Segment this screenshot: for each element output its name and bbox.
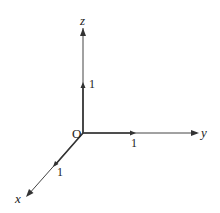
- x-unit-label: 1: [57, 166, 63, 179]
- y-unit-label: 1: [131, 137, 137, 150]
- axes-graphic: [0, 0, 220, 213]
- origin-label: O: [72, 127, 81, 140]
- coordinate-diagram: z 1 O y 1 x 1: [0, 0, 220, 213]
- x-axis-label: x: [15, 192, 21, 205]
- z-unit-label: 1: [89, 78, 95, 91]
- y-axis-label: y: [201, 126, 207, 139]
- z-axis-label: z: [80, 14, 85, 27]
